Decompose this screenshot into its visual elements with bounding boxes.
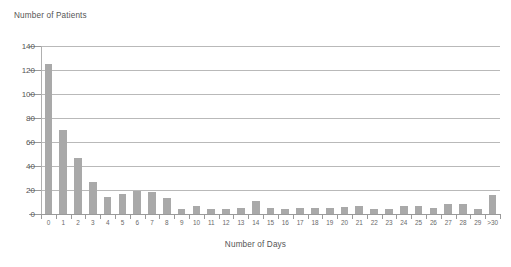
x-tick-label: 11	[208, 219, 214, 226]
x-tick-label: 12	[223, 219, 230, 226]
bar	[355, 206, 363, 214]
x-tick-mark	[396, 214, 397, 219]
x-tick-label: 19	[326, 219, 333, 226]
x-tick-label: 1	[61, 219, 64, 226]
y-tick-label: 60	[11, 138, 35, 147]
x-tick-mark	[41, 214, 42, 219]
y-tick-label: 0	[11, 210, 35, 219]
x-tick-mark	[500, 214, 501, 219]
bar	[400, 206, 408, 214]
x-tick-mark	[456, 214, 457, 219]
bar	[193, 206, 201, 214]
x-tick-mark	[411, 214, 412, 219]
x-tick-mark	[441, 214, 442, 219]
bar	[489, 195, 497, 214]
x-tick-mark	[470, 214, 471, 219]
x-tick-mark	[204, 214, 205, 219]
x-tick-mark	[130, 214, 131, 219]
x-tick-label: 15	[267, 219, 274, 226]
bar	[415, 206, 423, 214]
x-axis-title: Number of Days	[0, 240, 511, 249]
x-tick-mark	[219, 214, 220, 219]
histogram-chart: Number of Patients 020406080100120140 01…	[0, 0, 511, 267]
y-tick-label: 100	[11, 90, 35, 99]
x-tick-label: 23	[385, 219, 392, 226]
y-tick-label: 140	[11, 42, 35, 51]
x-tick-labels: 0123456789101112131415161718192021222324…	[41, 214, 500, 228]
x-tick-mark	[115, 214, 116, 219]
x-tick-mark	[278, 214, 279, 219]
x-tick-label: 25	[415, 219, 422, 226]
x-tick-label: 29	[474, 219, 481, 226]
x-tick-mark	[159, 214, 160, 219]
x-tick-label: 0	[47, 219, 50, 226]
x-tick-mark	[485, 214, 486, 219]
bar	[459, 204, 467, 214]
bar	[59, 130, 67, 214]
x-tick-label: 20	[341, 219, 348, 226]
x-tick-label: 16	[282, 219, 289, 226]
x-tick-mark	[233, 214, 234, 219]
x-tick-label: 8	[165, 219, 168, 226]
x-tick-label: 6	[136, 219, 139, 226]
x-tick-label: 28	[460, 219, 467, 226]
bar	[252, 201, 260, 214]
y-tick-label: 40	[11, 162, 35, 171]
x-tick-label: 14	[252, 219, 259, 226]
x-tick-mark	[293, 214, 294, 219]
bar-series	[41, 46, 500, 214]
x-tick-label: 2	[76, 219, 79, 226]
x-tick-label: 17	[297, 219, 304, 226]
x-tick-label: 3	[91, 219, 94, 226]
y-tick-labels: 020406080100120140	[0, 46, 35, 214]
x-tick-mark	[367, 214, 368, 219]
x-tick-mark	[263, 214, 264, 219]
x-tick-label: 9	[180, 219, 183, 226]
x-tick-mark	[337, 214, 338, 219]
x-tick-label: 5	[121, 219, 124, 226]
x-tick-mark	[189, 214, 190, 219]
x-tick-label: 13	[237, 219, 244, 226]
x-tick-label: 27	[445, 219, 452, 226]
bar	[45, 64, 53, 214]
bar	[104, 197, 112, 214]
x-tick-label: 10	[193, 219, 200, 226]
x-tick-label: 21	[356, 219, 363, 226]
x-tick-mark	[248, 214, 249, 219]
y-tick-label: 20	[11, 186, 35, 195]
x-tick-label: 18	[311, 219, 318, 226]
bar	[74, 158, 82, 214]
x-tick-mark	[56, 214, 57, 219]
bar	[163, 198, 171, 214]
bar	[119, 194, 127, 214]
x-tick-mark	[71, 214, 72, 219]
bar	[341, 207, 349, 214]
x-tick-mark	[100, 214, 101, 219]
x-tick-mark	[145, 214, 146, 219]
bar	[444, 204, 452, 214]
x-tick-mark	[426, 214, 427, 219]
x-tick-label: 26	[430, 219, 437, 226]
x-tick-mark	[352, 214, 353, 219]
x-tick-label: 22	[371, 219, 378, 226]
y-axis-title: Number of Patients	[14, 11, 87, 20]
bar	[148, 192, 156, 214]
y-tick-label: 80	[11, 114, 35, 123]
x-tick-mark	[174, 214, 175, 219]
x-tick-mark	[382, 214, 383, 219]
bar	[133, 191, 141, 214]
x-tick-label: >30	[487, 219, 498, 226]
x-tick-mark	[308, 214, 309, 219]
x-tick-label: 4	[106, 219, 109, 226]
x-tick-mark	[322, 214, 323, 219]
bar	[89, 182, 97, 214]
y-tick-label: 120	[11, 66, 35, 75]
x-tick-label: 24	[400, 219, 407, 226]
x-tick-label: 7	[150, 219, 153, 226]
x-tick-mark	[85, 214, 86, 219]
